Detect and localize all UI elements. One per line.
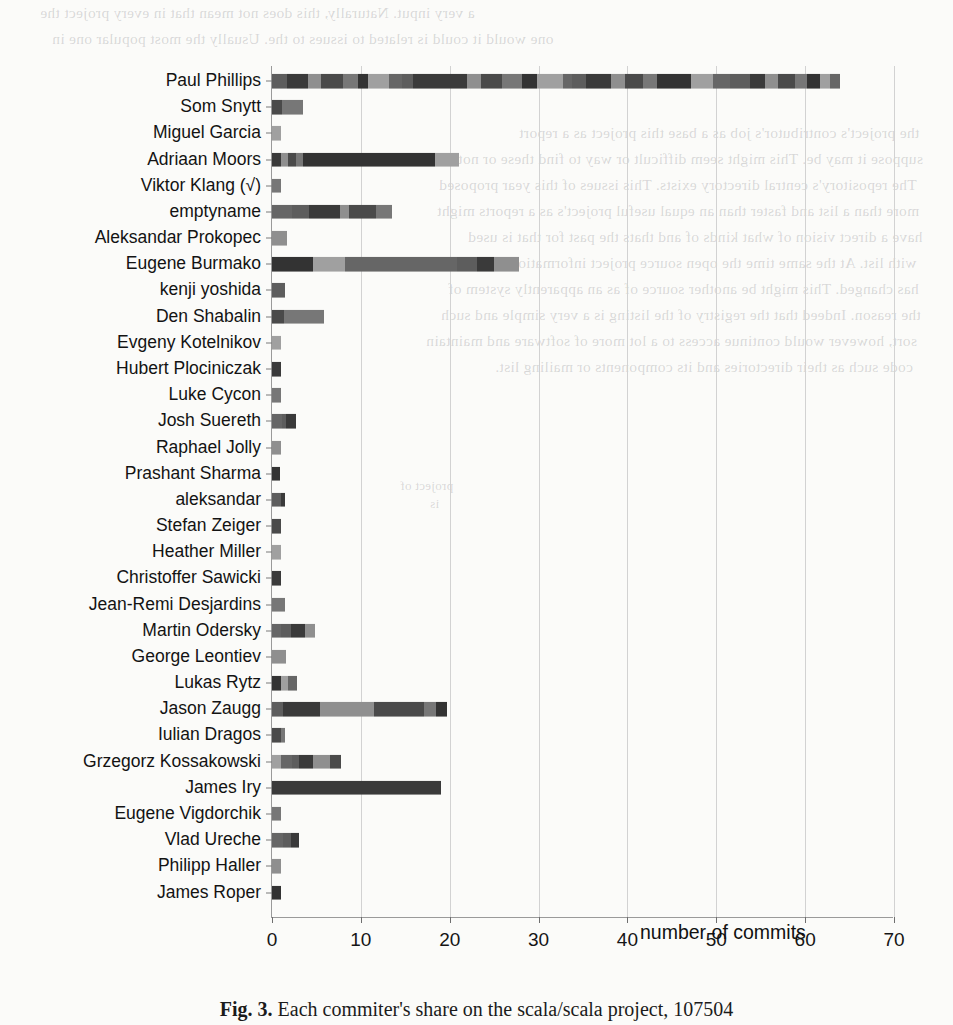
bar-row[interactable]: George Leontiev — [272, 644, 893, 670]
bar-row[interactable]: Miguel Garcia — [272, 120, 893, 146]
bar-row[interactable]: Christoffer Sawicki — [272, 565, 893, 591]
bar-segment — [272, 833, 283, 848]
stacked-bar[interactable] — [272, 597, 285, 612]
bar-segment — [413, 74, 467, 89]
bar-row[interactable]: Iulian Dragos — [272, 722, 893, 748]
bar-row[interactable]: Hubert Plociniczak — [272, 356, 893, 382]
stacked-bar[interactable] — [272, 388, 281, 403]
bar-segment — [284, 309, 324, 324]
y-axis-label: Adriaan Moors — [147, 151, 261, 169]
bar-segment — [281, 152, 288, 167]
stacked-bar[interactable] — [272, 545, 281, 560]
stacked-bar[interactable] — [272, 257, 519, 272]
stacked-bar[interactable] — [272, 152, 459, 167]
stacked-bar[interactable] — [272, 362, 281, 377]
bar-segment — [272, 152, 281, 167]
bar-row[interactable]: Grzegorz Kossakowski — [272, 749, 893, 775]
bar-row[interactable]: Aleksandar Prokopec — [272, 225, 893, 251]
stacked-bar[interactable] — [272, 624, 315, 639]
bar-segment — [436, 702, 447, 717]
bar-segment — [389, 74, 402, 89]
bar-segment — [477, 257, 494, 272]
y-axis-label: Vlad Ureche — [165, 831, 261, 849]
stacked-bar[interactable] — [272, 493, 285, 508]
stacked-bar[interactable] — [272, 100, 303, 115]
bar-segment — [807, 74, 820, 89]
bar-segment — [494, 257, 519, 272]
stacked-bar[interactable] — [272, 179, 281, 194]
bar-row[interactable]: Jean-Remi Desjardins — [272, 592, 893, 618]
bar-segment — [288, 676, 297, 691]
bar-segment — [467, 74, 480, 89]
stacked-bar[interactable] — [272, 440, 281, 455]
bar-row[interactable]: Viktor Klang (√) — [272, 173, 893, 199]
stacked-bar[interactable] — [272, 336, 281, 351]
stacked-bar[interactable] — [272, 702, 447, 717]
bar-row[interactable]: James Iry — [272, 775, 893, 801]
y-axis-label: Luke Cycon — [169, 386, 261, 404]
bar-row[interactable]: Paul Phillips — [272, 68, 893, 94]
bar-segment — [625, 74, 643, 89]
bar-segment — [750, 74, 765, 89]
bar-row[interactable]: emptyname — [272, 199, 893, 225]
bar-row[interactable]: Lukas Rytz — [272, 670, 893, 696]
stacked-bar[interactable] — [272, 728, 285, 743]
bar-segment — [305, 624, 315, 639]
bar-segment — [283, 702, 320, 717]
bar-row[interactable]: Vlad Ureche — [272, 827, 893, 853]
bar-segment — [272, 388, 281, 403]
stacked-bar[interactable] — [272, 231, 287, 246]
stacked-bar[interactable] — [272, 519, 281, 534]
stacked-bar[interactable] — [272, 466, 280, 481]
y-axis-label: Miguel Garcia — [153, 125, 261, 143]
stacked-bar[interactable] — [272, 74, 841, 89]
bar-segment — [292, 205, 310, 220]
stacked-bar[interactable] — [272, 885, 281, 900]
bar-row[interactable]: Josh Suereth — [272, 408, 893, 434]
stacked-bar[interactable] — [272, 283, 285, 298]
bar-segment — [272, 885, 281, 900]
bar-row[interactable]: Luke Cycon — [272, 382, 893, 408]
stacked-bar[interactable] — [272, 650, 286, 665]
bar-segment — [296, 152, 303, 167]
commits-bar-chart: 010203040506070 Paul PhillipsSom SnyttMi… — [0, 0, 953, 960]
stacked-bar[interactable] — [272, 781, 441, 796]
stacked-bar[interactable] — [272, 205, 392, 220]
stacked-bar[interactable] — [272, 309, 324, 324]
stacked-bar[interactable] — [272, 414, 296, 429]
bar-row[interactable]: Som Snytt — [272, 94, 893, 120]
stacked-bar[interactable] — [272, 126, 281, 141]
bar-row[interactable]: Prashant Sharma — [272, 461, 893, 487]
bar-row[interactable]: kenji yoshida — [272, 277, 893, 303]
bar-segment — [657, 74, 692, 89]
bar-row[interactable]: Eugene Burmako — [272, 251, 893, 277]
bar-row[interactable]: Stefan Zeiger — [272, 513, 893, 539]
stacked-bar[interactable] — [272, 754, 341, 769]
stacked-bar[interactable] — [272, 833, 299, 848]
stacked-bar[interactable] — [272, 571, 281, 586]
bar-row[interactable]: Martin Odersky — [272, 618, 893, 644]
bar-segment — [345, 257, 457, 272]
x-axis-title: number of commits — [640, 921, 806, 944]
bar-segment — [765, 74, 778, 89]
bar-row[interactable]: James Roper — [272, 879, 893, 905]
bar-row[interactable]: Adriaan Moors — [272, 147, 893, 173]
bar-segment — [272, 309, 284, 324]
x-tick-mark — [894, 917, 895, 923]
bar-row[interactable]: Philipp Haller — [272, 853, 893, 879]
y-axis-label: Philipp Haller — [158, 858, 261, 876]
x-tick-label: 30 — [528, 929, 549, 951]
stacked-bar[interactable] — [272, 676, 297, 691]
bar-segment — [435, 152, 458, 167]
stacked-bar[interactable] — [272, 807, 281, 822]
bar-segment — [272, 231, 287, 246]
bar-segment — [272, 519, 281, 534]
stacked-bar[interactable] — [272, 859, 281, 874]
bar-row[interactable]: Heather Miller — [272, 539, 893, 565]
bar-row[interactable]: Raphael Jolly — [272, 434, 893, 460]
bar-row[interactable]: Jason Zaugg — [272, 696, 893, 722]
bar-row[interactable]: aleksandar — [272, 487, 893, 513]
bar-row[interactable]: Den Shabalin — [272, 304, 893, 330]
bar-row[interactable]: Eugene Vigdorchik — [272, 801, 893, 827]
bar-row[interactable]: Evgeny Kotelnikov — [272, 330, 893, 356]
